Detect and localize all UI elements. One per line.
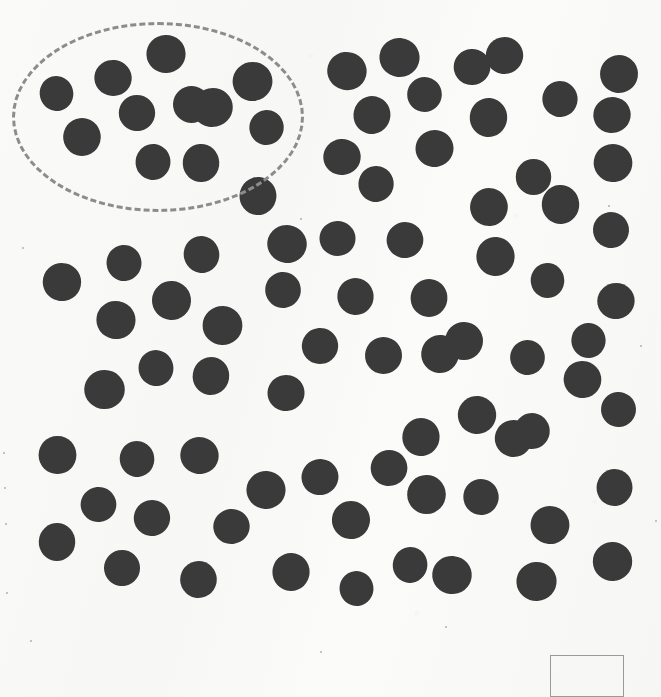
annotation-layer — [0, 0, 661, 697]
worksheet-page — [0, 0, 661, 697]
answer-box[interactable] — [550, 655, 624, 697]
dashed-group-ellipse — [12, 22, 304, 212]
